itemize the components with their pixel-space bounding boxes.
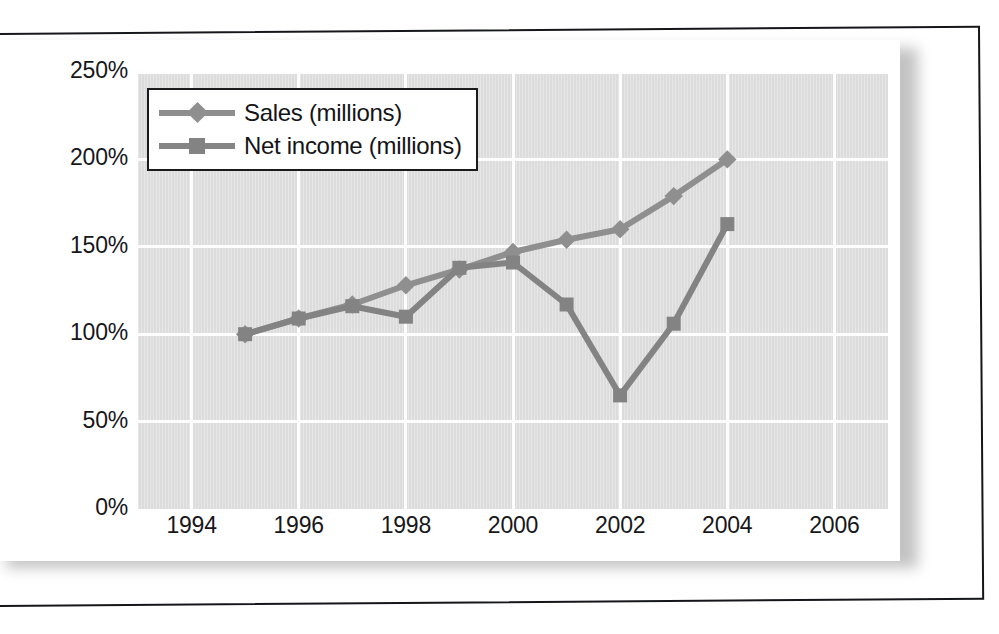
legend-item-sales[interactable]: Sales (millions) xyxy=(159,96,462,129)
chart-page: 250%200%150%100%50%0% 199419961998200020… xyxy=(0,0,999,634)
data-point-marker xyxy=(667,317,681,331)
data-point-marker xyxy=(720,217,734,231)
data-point-marker xyxy=(560,298,574,312)
x-axis-tick-label: 2000 xyxy=(458,512,568,539)
y-axis-tick-labels: 250%200%150%100%50%0% xyxy=(16,72,128,509)
legend-marker-square-icon xyxy=(159,136,235,156)
y-axis-tick-label: 250% xyxy=(28,57,128,84)
series-line-sales xyxy=(245,159,727,334)
data-point-marker xyxy=(557,231,575,249)
data-point-marker xyxy=(399,310,413,324)
legend-item-net-income[interactable]: Net income (millions) xyxy=(159,129,462,162)
x-axis-tick-label: 2002 xyxy=(565,512,675,539)
legend-marker-diamond-icon xyxy=(159,103,235,123)
data-point-marker xyxy=(452,261,466,275)
x-axis-tick-label: 1998 xyxy=(351,512,461,539)
y-axis-tick-label: 50% xyxy=(28,407,128,434)
y-axis-tick-label: 200% xyxy=(28,144,128,171)
y-axis-tick-label: 0% xyxy=(28,494,128,521)
data-point-marker xyxy=(506,256,520,270)
x-axis-tick-label: 1994 xyxy=(137,512,247,539)
legend-label-sales: Sales (millions) xyxy=(244,99,402,127)
legend-label-net-income: Net income (millions) xyxy=(244,132,462,160)
x-axis-tick-label: 1996 xyxy=(244,512,354,539)
data-point-marker xyxy=(238,327,252,341)
y-axis-tick-label: 150% xyxy=(28,232,128,259)
x-axis-tick-label: 2006 xyxy=(779,512,889,539)
series-line-net-income xyxy=(245,224,727,395)
data-point-marker xyxy=(613,388,627,402)
y-axis-tick-label: 100% xyxy=(28,319,128,346)
chart-card: 250%200%150%100%50%0% 199419961998200020… xyxy=(0,40,900,561)
x-axis-tick-labels: 1994199619982000200220042006 xyxy=(138,512,908,552)
data-point-marker xyxy=(292,312,306,326)
chart-legend: Sales (millions) Net income (millions) xyxy=(147,88,478,171)
x-axis-tick-label: 2004 xyxy=(672,512,782,539)
data-point-marker xyxy=(397,276,415,294)
data-point-marker xyxy=(345,299,359,313)
